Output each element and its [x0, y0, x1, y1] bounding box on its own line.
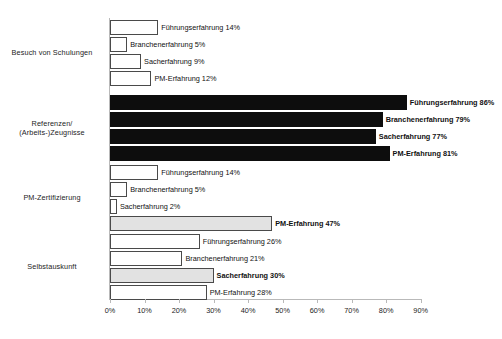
x-axis-tick-label: 90%: [401, 306, 441, 315]
bar-value-label: Branchenerfahrung 21%: [185, 253, 264, 264]
bar[interactable]: [110, 20, 158, 35]
category-label: Selbstauskunft: [0, 262, 104, 271]
bar[interactable]: [110, 71, 151, 86]
bar[interactable]: [110, 146, 390, 161]
bar-value-label: Branchenerfahrung 5%: [130, 184, 205, 195]
bar-value-label: PM-Erfahrung 47%: [275, 218, 340, 229]
bar-value-label: Führungserfahrung 14%: [161, 167, 240, 178]
bar-group: Besuch von SchulungenFührungserfahrung 1…: [110, 20, 502, 88]
bar[interactable]: [110, 95, 407, 110]
category-label-line: Selbstauskunft: [0, 262, 104, 271]
bar-value-label: PM-Erfahrung 81%: [393, 148, 458, 159]
x-axis-tick: [317, 299, 318, 303]
bar[interactable]: [110, 268, 214, 283]
category-label-line: Besuch von Schulungen: [0, 48, 104, 57]
x-axis-tick: [352, 299, 353, 303]
bar[interactable]: [110, 199, 117, 214]
bar-value-label: Sacherfahrung 77%: [379, 131, 447, 142]
bar-value-label: Sacherfahrung 30%: [217, 270, 285, 281]
x-axis-tick: [248, 299, 249, 303]
plot-area: Besuch von SchulungenFührungserfahrung 1…: [110, 18, 502, 300]
bar-group: SelbstauskunftFührungserfahrung 26%Branc…: [110, 234, 502, 302]
bar[interactable]: [110, 54, 141, 69]
bar[interactable]: [110, 37, 127, 52]
category-label-line: (Arbeits-)Zeugnisse: [0, 128, 104, 137]
bar[interactable]: [110, 165, 158, 180]
bar-value-label: Sacherfahrung 2%: [120, 201, 180, 212]
x-axis-tick: [421, 299, 422, 303]
category-label-line: Referenzen/: [0, 119, 104, 128]
bar-value-label: Branchenerfahrung 5%: [130, 39, 205, 50]
category-label: Referenzen/(Arbeits-)Zeugnisse: [0, 119, 104, 138]
x-axis-tick: [214, 299, 215, 303]
x-axis-tick: [283, 299, 284, 303]
bar-value-label: Führungserfahrung 26%: [203, 236, 282, 247]
bar-value-label: PM-Erfahrung 28%: [210, 287, 272, 298]
bar-value-label: Führungserfahrung 14%: [161, 22, 240, 33]
bar-value-label: Sacherfahrung 9%: [144, 56, 204, 67]
bar[interactable]: [110, 216, 272, 231]
x-axis-tick: [145, 299, 146, 303]
category-label-line: PM-Zertifizierung: [0, 193, 104, 202]
bar-group: Referenzen/(Arbeits-)ZeugnisseFührungser…: [110, 95, 502, 163]
bar[interactable]: [110, 182, 127, 197]
bar[interactable]: [110, 112, 383, 127]
bar[interactable]: [110, 285, 207, 300]
bar-group: PM-ZertifizierungFührungserfahrung 14%Br…: [110, 165, 502, 233]
bar[interactable]: [110, 251, 182, 266]
category-label: Besuch von Schulungen: [0, 48, 104, 57]
bar[interactable]: [110, 129, 376, 144]
x-axis-tick: [179, 299, 180, 303]
bar-chart: Besuch von SchulungenFührungserfahrung 1…: [0, 0, 502, 339]
x-axis-tick: [386, 299, 387, 303]
x-axis-tick: [110, 299, 111, 303]
bar-value-label: PM-Erfahrung 12%: [154, 73, 216, 84]
category-label: PM-Zertifizierung: [0, 193, 104, 202]
bar-value-label: Führungserfahrung 86%: [410, 97, 494, 108]
bar-value-label: Branchenerfahrung 79%: [386, 114, 470, 125]
bar[interactable]: [110, 234, 200, 249]
